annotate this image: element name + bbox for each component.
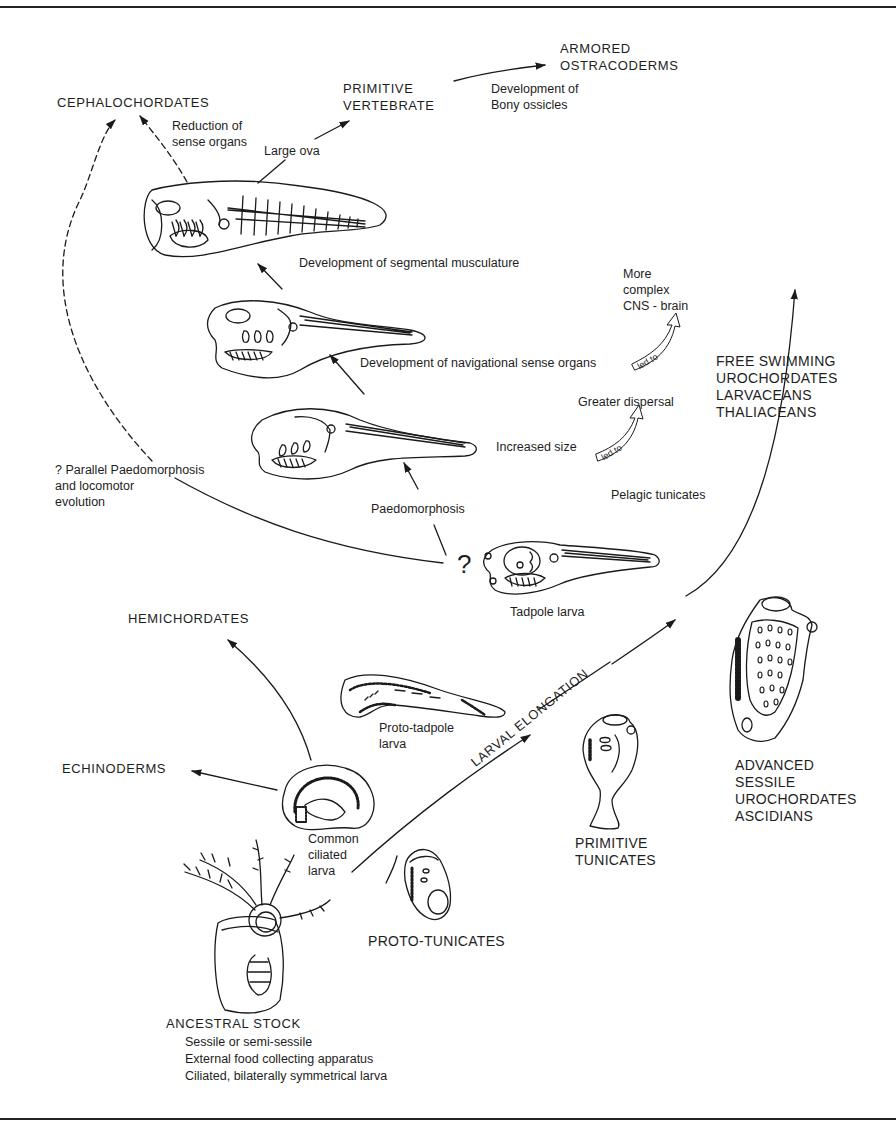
- annotation-common-line1: Common: [308, 831, 359, 847]
- drawing-proto-tunicate: [405, 850, 451, 920]
- label-armored-ostracoderms: ARMORED OSTRACODERMS: [560, 41, 678, 74]
- drawing-common-ciliated-larva: [282, 765, 373, 829]
- label-advanced-line3: UROCHORDATES: [735, 791, 857, 808]
- annotation-parallel-line3: evolution: [55, 494, 204, 510]
- annotation-cns-line1: More: [623, 266, 688, 282]
- arrow-navigational: [330, 355, 364, 394]
- label-prim-tunicates-line1: PRIMITIVE: [575, 835, 656, 852]
- annotation-proto-tadpole-line2: larva: [379, 736, 454, 752]
- annotation-segmental-musculature: Development of segmental musculature: [299, 255, 519, 271]
- label-ancestral-stock: ANCESTRAL STOCK: [166, 1016, 301, 1033]
- large-ova-arrow: [258, 160, 285, 183]
- label-armored-line1: ARMORED: [560, 41, 678, 58]
- pelagic-arrow: [686, 290, 795, 596]
- proto-tunicates-leader: [386, 856, 397, 883]
- annotation-bony-line2: Bony ossicles: [491, 97, 579, 113]
- label-free-line1: FREE SWIMMING: [716, 353, 838, 370]
- label-hemichordates: HEMICHORDATES: [128, 611, 249, 628]
- label-primitive-vertebrate-line2: VERTEBRATE: [343, 98, 434, 115]
- annotation-cns-line2: complex: [623, 282, 688, 298]
- annotation-reduction-line1: Reduction of: [172, 118, 247, 134]
- annotation-bony-line1: Development of: [491, 81, 579, 97]
- ancestral-trait: External food collecting apparatus: [185, 1051, 387, 1068]
- ancestral-trait: Sessile or semi-sessile: [185, 1034, 387, 1051]
- paedomorphosis-arc: [175, 478, 443, 563]
- paedo-to-question: [434, 525, 446, 555]
- annotation-proto-tadpole: Proto-tadpole larva: [379, 720, 454, 752]
- arrow-paedomorphosis: [404, 463, 418, 489]
- label-advanced-line2: SESSILE: [735, 774, 857, 791]
- annotation-large-ova: Large ova: [264, 143, 320, 159]
- label-primitive-vertebrate: PRIMITIVE VERTEBRATE: [343, 81, 434, 114]
- label-cephalochordates: CEPHALOCHORDATES: [57, 95, 209, 112]
- annotation-reduction-sense: Reduction of sense organs: [172, 118, 247, 150]
- echinoderms-arrow: [192, 771, 277, 790]
- label-proto-tunicates: PROTO-TUNICATES: [368, 933, 505, 950]
- annotation-complex-cns: More complex CNS - brain: [623, 266, 688, 314]
- annotation-greater-dispersal: Greater dispersal: [578, 394, 674, 410]
- annotation-common-line3: larva: [308, 863, 359, 879]
- question-mark: ?: [457, 550, 471, 578]
- label-free-line2: UROCHORDATES: [716, 370, 838, 387]
- label-echinoderms: ECHINODERMS: [62, 761, 166, 778]
- label-free-line3: LARVACEANS: [716, 387, 838, 404]
- annotation-parallel-line1: ? Parallel Paedomorphosis: [55, 462, 204, 478]
- drawing-proto-tadpole: [341, 675, 505, 717]
- label-free-line4: THALIACEANS: [716, 404, 838, 421]
- annotation-common-ciliated: Common ciliated larva: [308, 831, 359, 879]
- annotation-common-line2: ciliated: [308, 847, 359, 863]
- label-advanced-line1: ADVANCED: [735, 757, 857, 774]
- label-advanced-sessile: ADVANCED SESSILE UROCHORDATES ASCIDIANS: [735, 757, 857, 825]
- annotation-increased-size: Increased size: [496, 439, 577, 455]
- drawing-primitive-tunicate: [583, 715, 638, 829]
- annotation-pelagic-tunicates: Pelagic tunicates: [611, 487, 706, 503]
- drawing-tadpole-stage-3: [252, 409, 477, 479]
- annotation-reduction-line2: sense organs: [172, 134, 247, 150]
- label-primitive-vertebrate-line1: PRIMITIVE: [343, 81, 434, 98]
- parallel-paedomorphosis-dashed-arrow: [63, 120, 152, 461]
- annotation-tadpole-larva: Tadpole larva: [510, 604, 584, 620]
- drawing-ascidian: [730, 597, 817, 741]
- annotation-parallel-paedomorphosis: ? Parallel Paedomorphosis and locomotor …: [55, 462, 204, 510]
- ostracoderm-arrow: [454, 65, 545, 81]
- label-primitive-tunicates: PRIMITIVE TUNICATES: [575, 835, 656, 869]
- annotation-proto-tadpole-line1: Proto-tadpole: [379, 720, 454, 736]
- label-free-swimming: FREE SWIMMING UROCHORDATES LARVACEANS TH…: [716, 353, 838, 421]
- drawing-segmented-tadpole: [144, 181, 386, 257]
- arrow-segmental: [258, 264, 282, 289]
- ancestral-trait: Ciliated, bilaterally symmetrical larva: [185, 1068, 387, 1085]
- diagram-drawing: [0, 0, 896, 1129]
- label-advanced-line4: ASCIDIANS: [735, 808, 857, 825]
- ancestral-traits-list: Sessile or semi-sessile External food co…: [185, 1034, 387, 1085]
- hemichordates-arrow: [228, 640, 311, 760]
- label-armored-line2: OSTRACODERMS: [560, 58, 678, 75]
- annotation-cns-line3: CNS - brain: [623, 298, 688, 314]
- larval-elongation-arrow: [352, 735, 530, 872]
- annotation-paedomorphosis: Paedomorphosis: [371, 501, 465, 517]
- annotation-bony-ossicles: Development of Bony ossicles: [491, 81, 579, 113]
- label-prim-tunicates-line2: TUNICATES: [575, 852, 656, 869]
- annotation-navigational: Development of navigational sense organs: [360, 355, 596, 371]
- annotation-parallel-line2: and locomotor: [55, 478, 204, 494]
- drawing-tadpole-larva: [484, 542, 660, 594]
